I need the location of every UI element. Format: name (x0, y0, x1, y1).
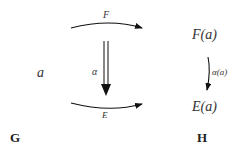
functor-e-arrow (71, 103, 142, 108)
component-label: α(a) (212, 68, 227, 77)
target-top-object-label: F(a) (192, 28, 217, 42)
source-object-label: a (37, 66, 44, 80)
functor-f-label: F (103, 10, 109, 20)
target-category-label: H (197, 131, 207, 144)
natural-transformation-double-arrow (101, 41, 111, 96)
natural-transformation-label: α (92, 67, 97, 77)
component-arrow (207, 57, 209, 90)
functor-f-arrow (71, 23, 142, 28)
source-category-label: G (10, 131, 20, 144)
functor-e-label: E (102, 111, 108, 120)
target-bottom-object-label: E(a) (192, 100, 217, 114)
